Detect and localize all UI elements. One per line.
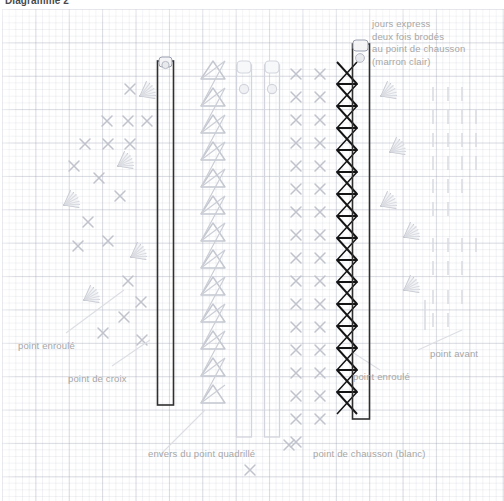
page-title: Diagramme 2 <box>5 0 69 6</box>
label-point-de-croix: point de croix <box>68 373 127 386</box>
label-envers-du-point-quadrille: envers du point quadrillé <box>148 448 255 461</box>
callout-line-2: deux fois brodés <box>372 31 465 44</box>
label-point-enroule-right: point enroulé <box>353 371 410 384</box>
callout-line-1: jours express <box>372 18 465 31</box>
cross-stitch-field-right <box>291 69 325 447</box>
dark-band-left <box>158 57 174 405</box>
chevron-column-reverse-lattice <box>201 61 225 403</box>
stitch-artwork <box>0 0 504 501</box>
callout-line-4: (marron clair) <box>372 56 465 69</box>
label-point-enroule-left: point enroulé <box>18 340 75 353</box>
callout-jours-express: jours express deux fois brodés au point … <box>372 18 465 68</box>
running-stitch-field <box>425 87 476 330</box>
light-strip-a <box>237 61 252 437</box>
light-strip-b <box>265 61 280 437</box>
label-point-de-chausson: point de chausson (blanc) <box>313 448 426 461</box>
cross-stitch-field-left <box>69 84 152 345</box>
bullion-stitch-fans-right <box>381 81 423 294</box>
callout-line-3: au point de chausson <box>372 43 465 56</box>
bullion-stitch-fans-left <box>64 81 159 304</box>
herringbone-stitch-dark <box>337 62 357 414</box>
label-point-avant: point avant <box>430 348 478 361</box>
diagram-canvas: Diagramme 2 jours express deux fois brod… <box>0 0 504 501</box>
